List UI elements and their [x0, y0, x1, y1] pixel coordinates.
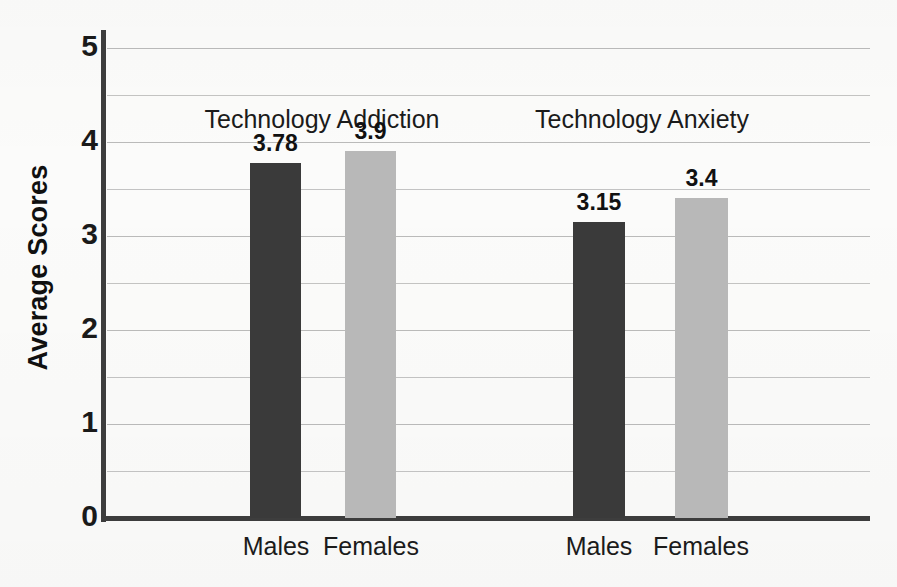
y-tick-5: 5: [58, 31, 98, 61]
bar-rect: [345, 151, 396, 518]
bar-value-label: 3.15: [577, 189, 622, 216]
gridline-3-5: [107, 189, 870, 190]
bar-technology-anxiety-females[interactable]: 3.4: [675, 198, 728, 518]
group-label-technology-anxiety: Technology Anxiety: [535, 105, 749, 134]
bar-rect: [675, 198, 728, 518]
y-tick-4: 4: [58, 125, 98, 155]
bar-rect: [573, 222, 625, 518]
bar-value-label: 3.4: [686, 165, 718, 192]
y-tick-3: 3: [58, 219, 98, 249]
chart-figure: Average Scores 5 4 3 2 1 0 Technology Ad…: [0, 0, 897, 587]
gridline-4-5: [107, 95, 870, 96]
category-label-addiction-females: Females: [323, 532, 419, 561]
plot-area: Technology Addiction Technology Anxiety …: [107, 48, 870, 518]
gridline-2-5: [107, 283, 870, 284]
category-label-anxiety-males: Males: [566, 532, 633, 561]
bar-technology-addiction-males[interactable]: 3.78: [250, 163, 301, 518]
category-label-anxiety-females: Females: [653, 532, 749, 561]
y-tick-2: 2: [58, 313, 98, 343]
bar-value-label: 3.78: [253, 130, 298, 157]
y-axis-line: [101, 30, 106, 522]
gridline-5-0: [107, 48, 870, 49]
gridline-1-0: [107, 424, 870, 425]
bar-value-label: 3.9: [355, 118, 387, 145]
gridline-4-0: [107, 142, 870, 143]
bar-technology-addiction-females[interactable]: 3.9: [345, 151, 396, 518]
gridline-0-5: [107, 471, 870, 472]
category-label-addiction-males: Males: [243, 532, 310, 561]
gridline-3-0: [107, 236, 870, 237]
bar-rect: [250, 163, 301, 518]
y-tick-1: 1: [58, 407, 98, 437]
gridline-1-5: [107, 377, 870, 378]
group-label-technology-addiction: Technology Addiction: [205, 105, 440, 134]
y-axis-tick-labels: 5 4 3 2 1 0: [40, 0, 98, 587]
y-tick-0: 0: [58, 501, 98, 531]
gridline-2-0: [107, 330, 870, 331]
bar-technology-anxiety-males[interactable]: 3.15: [573, 222, 625, 518]
